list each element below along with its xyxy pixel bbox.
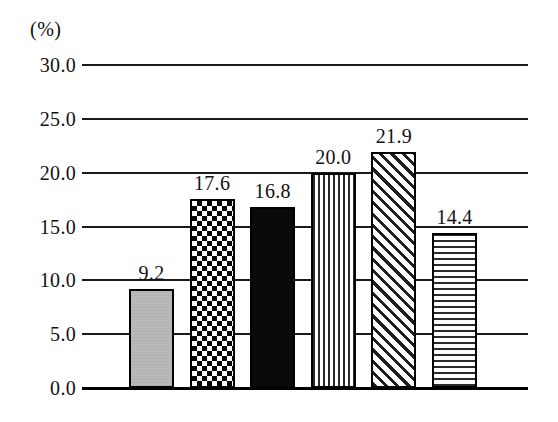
bar-value-label: 21.9 — [376, 125, 412, 148]
bar-value-label: 17.6 — [194, 172, 230, 195]
bar-5 — [371, 152, 416, 388]
bar-1 — [129, 289, 174, 388]
bar-chart: (%) 30.025.020.015.010.05.00.0 9.217.616… — [0, 0, 558, 422]
bar-6 — [432, 233, 477, 388]
bar-value-label: 14.4 — [436, 206, 472, 229]
bar-value-label: 9.2 — [139, 262, 165, 285]
bar-value-label: 16.8 — [255, 180, 291, 203]
bar-value-label: 20.0 — [315, 146, 351, 169]
plot-area: 9.217.616.820.021.914.4 — [0, 0, 558, 422]
bar-4 — [311, 173, 356, 388]
bar-2 — [190, 199, 235, 388]
bar-3 — [250, 207, 295, 388]
